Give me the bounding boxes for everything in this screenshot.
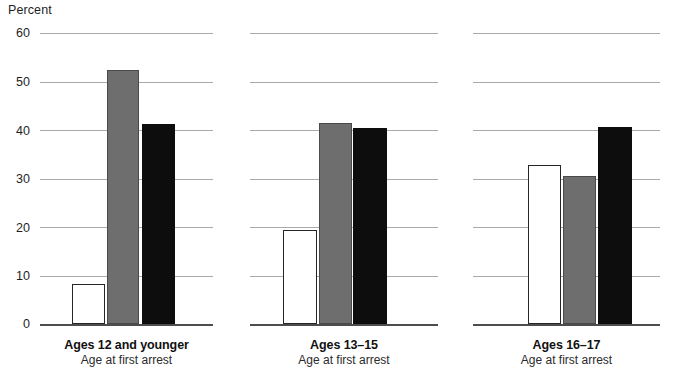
y-tick-label-60: 60 <box>4 27 30 40</box>
gridline-50 <box>250 82 438 83</box>
bar-gray <box>107 70 139 324</box>
gridline-60 <box>40 33 213 34</box>
bar-white <box>72 284 105 324</box>
chart-panel: Ages 12 and youngerAge at first arrest <box>40 0 213 382</box>
y-tick-label-50: 50 <box>4 76 30 89</box>
y-tick-label-10: 10 <box>4 270 30 283</box>
panel-caption: Ages 12 and youngerAge at first arrest <box>40 338 213 367</box>
panel-caption-subtitle: Age at first arrest <box>40 353 213 367</box>
panel-caption-subtitle: Age at first arrest <box>250 353 438 367</box>
y-tick-label-40: 40 <box>4 125 30 138</box>
gridline-60 <box>473 33 660 34</box>
bar-black <box>353 128 387 324</box>
chart-panel: Ages 13–15Age at first arrest <box>250 0 438 382</box>
y-tick-label-0: 0 <box>4 318 30 331</box>
bar-black <box>598 127 632 324</box>
axis-baseline <box>40 324 213 326</box>
panel-caption-title: Ages 16–17 <box>473 338 660 352</box>
y-tick-label-20: 20 <box>4 222 30 235</box>
chart-figure: Percent 60 50 40 30 20 10 0 Ages 12 and … <box>0 0 689 382</box>
panel-caption-title: Ages 13–15 <box>250 338 438 352</box>
panel-caption-subtitle: Age at first arrest <box>473 353 660 367</box>
gridline-60 <box>250 33 438 34</box>
panel-caption-title: Ages 12 and younger <box>40 338 213 352</box>
y-tick-label-30: 30 <box>4 173 30 186</box>
bar-black <box>142 124 175 324</box>
panel-caption: Ages 13–15Age at first arrest <box>250 338 438 367</box>
chart-panel: Ages 16–17Age at first arrest <box>473 0 660 382</box>
panel-caption: Ages 16–17Age at first arrest <box>473 338 660 367</box>
axis-baseline <box>250 324 438 326</box>
bar-white <box>528 165 561 324</box>
bar-gray <box>319 123 352 324</box>
bar-white <box>283 230 317 324</box>
axis-baseline <box>473 324 660 326</box>
bar-gray <box>563 176 596 324</box>
gridline-50 <box>473 82 660 83</box>
